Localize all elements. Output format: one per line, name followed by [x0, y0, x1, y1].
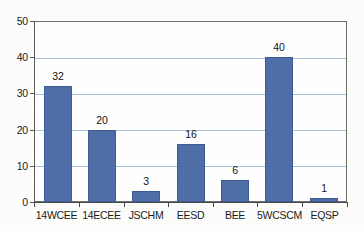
y-tick-label-40: 40 — [0, 52, 28, 63]
y-tick-mark-10 — [30, 166, 34, 167]
bar-5wcscm[interactable] — [265, 57, 293, 202]
bar-value-label-eqsp: 1 — [310, 183, 338, 194]
x-tick-label-jschm: JSCHM — [124, 210, 168, 221]
y-tick-label-0: 0 — [0, 197, 28, 208]
y-tick-label-10: 10 — [0, 161, 28, 172]
y-tick-label-50: 50 — [0, 16, 28, 27]
bar-value-label-14wcee: 32 — [44, 71, 72, 82]
bar-eesd[interactable] — [177, 144, 205, 202]
x-tick-label-5wcscm: 5WCSCM — [255, 210, 304, 221]
x-tick-mark-2 — [124, 203, 125, 207]
bar-value-label-jschm: 3 — [132, 176, 160, 187]
y-axis-line — [34, 21, 35, 203]
bar-value-label-bee: 6 — [221, 165, 249, 176]
bar-value-label-eesd: 16 — [177, 129, 205, 140]
y-tick-mark-50 — [30, 21, 34, 22]
x-tick-mark-5 — [257, 203, 258, 207]
x-tick-mark-3 — [168, 203, 169, 207]
y-tick-label-20: 20 — [0, 125, 28, 136]
gridline-30 — [35, 94, 346, 95]
bar-jschm[interactable] — [132, 191, 160, 202]
x-tick-mark-4 — [213, 203, 214, 207]
x-tick-label-bee: BEE — [213, 210, 257, 221]
gridline-40 — [35, 58, 346, 59]
x-tick-label-14ecee: 14ECEE — [79, 210, 124, 221]
y-tick-label-30: 30 — [0, 88, 28, 99]
bar-value-label-5wcscm: 40 — [265, 42, 293, 53]
bar-chart-figure: 50 40 30 20 10 0 32 20 3 16 6 40 1 14WCE… — [0, 0, 364, 230]
bar-14wcee[interactable] — [44, 86, 72, 202]
y-tick-mark-40 — [30, 57, 34, 58]
x-tick-label-eqsp: EQSP — [302, 210, 347, 221]
x-tick-mark-0 — [34, 203, 35, 207]
y-tick-mark-20 — [30, 130, 34, 131]
x-axis-line — [34, 202, 348, 203]
x-tick-mark-1 — [79, 203, 80, 207]
x-tick-label-eesd: EESD — [168, 210, 213, 221]
x-tick-mark-7 — [347, 203, 348, 207]
y-tick-mark-30 — [30, 93, 34, 94]
bar-14ecee[interactable] — [88, 130, 116, 202]
x-tick-mark-6 — [302, 203, 303, 207]
x-tick-label-14wcee: 14WCEE — [34, 210, 79, 221]
bar-bee[interactable] — [221, 180, 249, 202]
bar-value-label-14ecee: 20 — [88, 115, 116, 126]
